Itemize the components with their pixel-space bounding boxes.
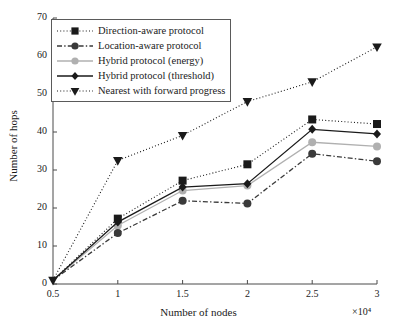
chart-legend: Direction-aware protocolLocation-aware p… — [51, 19, 231, 102]
x-tick-label: 1.5 — [163, 288, 203, 299]
y-tick-label: 10 — [21, 239, 47, 250]
y-tick-label: 40 — [21, 125, 47, 136]
y-tick-label: 70 — [21, 11, 47, 22]
legend-label: Hybrid protocol (energy) — [95, 55, 203, 66]
x-tick-label: 2.5 — [292, 288, 332, 299]
x-tick-label: 3 — [357, 288, 397, 299]
x-axis-multiplier: ×10⁴ — [352, 306, 371, 317]
chart-series — [53, 150, 381, 281]
y-tick-label: 0 — [21, 277, 47, 288]
legend-label: Hybrid protocol (threshold) — [95, 70, 214, 81]
y-tick-label: 20 — [21, 201, 47, 212]
y-axis-title: Number of hops — [7, 81, 19, 211]
legend-item: Hybrid protocol (threshold) — [55, 68, 225, 83]
chart-series — [53, 115, 381, 280]
legend-label: Location-aware protocol — [95, 40, 202, 51]
x-tick-label: 1 — [98, 288, 138, 299]
x-tick-label: 0.5 — [33, 288, 73, 299]
y-tick-label: 50 — [21, 87, 47, 98]
chart-figure: 010203040506070 0.511.522.53 Number of n… — [0, 0, 397, 329]
legend-item: Nearest with forward progress — [55, 83, 225, 98]
legend-marker-icon — [55, 69, 95, 83]
legend-label: Direction-aware protocol — [95, 25, 204, 36]
legend-marker-icon — [55, 84, 95, 98]
y-tick-label: 30 — [21, 163, 47, 174]
legend-marker-icon — [55, 54, 95, 68]
legend-item: Direction-aware protocol — [55, 23, 225, 38]
legend-label: Nearest with forward progress — [95, 85, 225, 96]
legend-item: Location-aware protocol — [55, 38, 225, 53]
y-tick-label: 60 — [21, 49, 47, 60]
x-tick-label: 2 — [227, 288, 267, 299]
x-axis-title: Number of nodes — [0, 306, 397, 318]
legend-marker-icon — [55, 39, 95, 53]
legend-marker-icon — [55, 24, 95, 38]
chart-series — [53, 138, 381, 280]
legend-item: Hybrid protocol (energy) — [55, 53, 225, 68]
